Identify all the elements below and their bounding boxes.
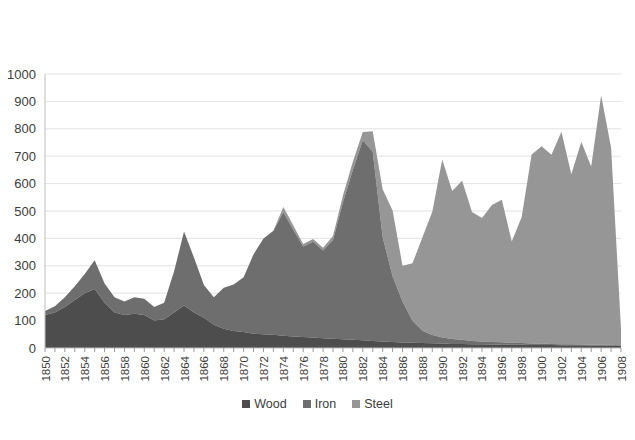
x-axis-tick-label: 1852 <box>59 356 71 382</box>
y-axis-tick-label: 0 <box>29 341 36 356</box>
legend-item-label: Wood <box>254 398 286 411</box>
stacked-area-chart: 01002003004005006007008009001000 1850185… <box>0 0 635 440</box>
y-axis-tick-label: 500 <box>14 204 36 219</box>
x-axis-tick-label: 1896 <box>496 356 508 382</box>
chart-legend: WoodIronSteel <box>0 398 635 411</box>
x-axis-tick-label: 1870 <box>238 356 250 382</box>
legend-item-steel[interactable]: Steel <box>352 398 393 411</box>
x-axis-tick-label: 1898 <box>516 356 528 382</box>
plot-area: 01002003004005006007008009001000 1850185… <box>0 0 635 440</box>
legend-swatch-icon <box>352 400 360 408</box>
legend-item-label: Iron <box>315 398 337 411</box>
x-axis-tick-label: 1882 <box>357 356 369 382</box>
x-axis-tick-label: 1894 <box>476 355 488 381</box>
x-axis-tick-label: 1850 <box>40 356 52 382</box>
x-axis-tick-label: 1902 <box>556 356 568 382</box>
legend-swatch-icon <box>242 400 250 408</box>
x-axis-tick-label: 1884 <box>377 355 389 381</box>
y-axis-tick-label: 200 <box>14 286 36 301</box>
y-axis-tick-label: 600 <box>14 176 36 191</box>
x-axis-tick-label: 1878 <box>318 356 330 382</box>
x-axis-tick-label: 1860 <box>139 356 151 382</box>
x-axis-tick-label: 1880 <box>337 356 349 382</box>
x-axis-tick-label: 1906 <box>596 356 608 382</box>
chart-canvas: 01002003004005006007008009001000 1850185… <box>0 0 635 440</box>
x-axis-tick-label: 1886 <box>397 356 409 382</box>
legend-item-wood[interactable]: Wood <box>242 398 286 411</box>
caption-clipped <box>0 428 635 440</box>
x-axis-tick-label: 1890 <box>437 356 449 382</box>
x-axis-tick-label: 1868 <box>218 356 230 382</box>
y-axis-tick-labels: 01002003004005006007008009001000 <box>7 67 36 356</box>
x-axis-tick-label: 1856 <box>99 356 111 382</box>
y-axis-tick-label: 400 <box>14 231 36 246</box>
x-axis-tick-label: 1872 <box>258 356 270 382</box>
legend-item-iron[interactable]: Iron <box>303 398 337 411</box>
x-axis-tick-label: 1874 <box>278 355 290 381</box>
y-axis-tick-label: 1000 <box>7 67 36 82</box>
y-axis-tick-label: 800 <box>14 121 36 136</box>
y-axis-tick-label: 300 <box>14 258 36 273</box>
legend-swatch-icon <box>303 400 311 408</box>
y-axis-tick-label: 700 <box>14 149 36 164</box>
x-axis-tick-label: 1904 <box>576 355 588 381</box>
x-axis-tick-label: 1864 <box>179 355 191 381</box>
x-axis-tick-label: 1908 <box>616 356 628 382</box>
x-axis-tick-label: 1858 <box>119 356 131 382</box>
x-axis-tick-label: 1854 <box>79 355 91 381</box>
legend-item-label: Steel <box>364 398 393 411</box>
y-axis-tick-label: 100 <box>14 313 36 328</box>
x-axis-tick-label: 1876 <box>298 356 310 382</box>
x-axis-tick-labels: 1850185218541856185818601862186418661868… <box>40 355 628 381</box>
y-axis-tick-label: 900 <box>14 94 36 109</box>
area-series-group <box>45 95 621 348</box>
x-axis-tick-label: 1900 <box>536 356 548 382</box>
x-axis-tick-label: 1862 <box>159 356 171 382</box>
x-axis-tick-label: 1866 <box>198 356 210 382</box>
x-axis-tick-label: 1888 <box>417 356 429 382</box>
x-axis-tick-label: 1892 <box>457 356 469 382</box>
